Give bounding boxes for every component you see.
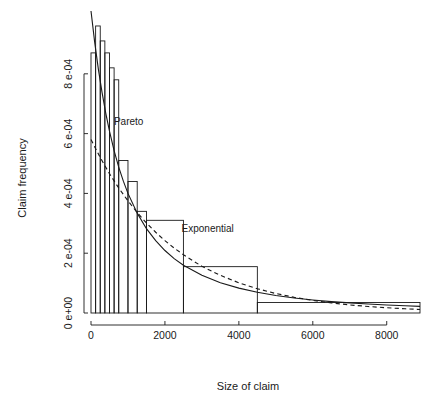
claim-frequency-chart: 0 e+002 e-044 e-046 e-048 e-04 020004000… (0, 0, 439, 402)
exponential-annotation: Exponential (182, 223, 234, 234)
x-axis-title: Size of claim (217, 380, 279, 392)
figure-container: 0 e+002 e-044 e-046 e-048 e-04 020004000… (0, 0, 439, 402)
y-tick-label: 8 e-04 (62, 59, 74, 89)
x-tick-label: 8000 (375, 329, 399, 341)
y-axis-title: Claim frequency (16, 138, 28, 218)
y-tick-label: 2 e-04 (62, 238, 74, 268)
y-tick-label: 0 e+00 (62, 297, 74, 330)
x-tick-label: 2000 (153, 329, 177, 341)
x-tick-label: 0 (88, 329, 94, 341)
x-tick-label: 6000 (301, 329, 325, 341)
y-tick-label: 4 e-04 (62, 178, 74, 208)
x-tick-label: 4000 (227, 329, 251, 341)
y-tick-label: 6 e-04 (62, 119, 74, 149)
pareto-annotation: Pareto (114, 116, 144, 127)
